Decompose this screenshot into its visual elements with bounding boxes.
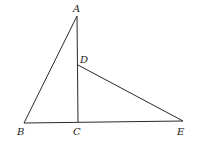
- geometry-diagram: A B C D E: [0, 0, 198, 145]
- label-D: D: [79, 54, 88, 65]
- label-E: E: [176, 126, 185, 137]
- label-C: C: [73, 126, 81, 137]
- segment-DE: [78, 65, 183, 121]
- label-A: A: [72, 3, 80, 14]
- segment-BE: [24, 121, 183, 123]
- segment-AB: [24, 16, 77, 123]
- segment-AC: [77, 16, 78, 122]
- label-B: B: [16, 126, 24, 137]
